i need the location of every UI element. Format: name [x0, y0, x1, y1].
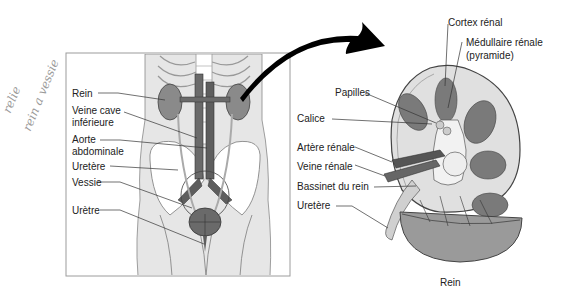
label-cortex-renal: Cortex rénal [448, 17, 502, 28]
label-aorte-line1: Aorte [72, 134, 96, 145]
label-veine-cave-line2: inférieure [72, 117, 114, 128]
label-uretre: Urètre [72, 205, 100, 216]
label-bassinet: Bassinet du rein [297, 181, 369, 192]
label-veine-cave-line1: Veine cave [72, 105, 121, 116]
label-vessie: Vessie [72, 177, 101, 188]
label-calice: Calice [297, 113, 325, 124]
label-aorte-line2: abdominale [72, 146, 124, 157]
label-artere-renale: Artère rénale [297, 142, 355, 153]
label-uretere-kidney: Uretère [297, 200, 330, 211]
label-rein: Rein [72, 88, 93, 99]
label-papilles: Papilles [335, 87, 370, 98]
label-veine-renale: Veine rénale [297, 161, 353, 172]
label-uretere-body: Uretère [72, 161, 105, 172]
label-medullaire-line2: (pyramide) [466, 50, 514, 61]
kidney-caption: Rein [440, 277, 461, 288]
label-medullaire-line1: Médullaire rénale [466, 37, 543, 48]
